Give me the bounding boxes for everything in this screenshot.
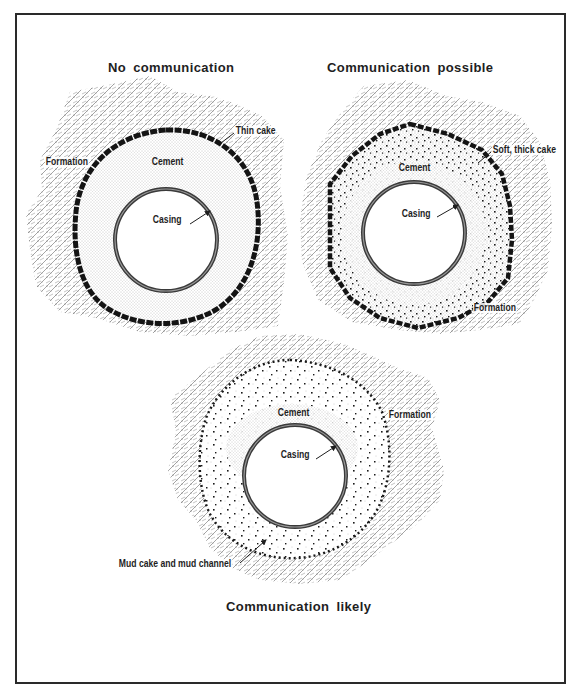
label-cement: Cement bbox=[151, 157, 184, 167]
panel-title-communication-possible: Communication possible bbox=[327, 61, 493, 74]
label-mud-cake-channel: Mud cake and mud channel bbox=[118, 559, 232, 569]
cement-bond-diagram: No communication Communication possible … bbox=[0, 0, 578, 696]
panel-title-communication-likely: Communication likely bbox=[226, 600, 371, 613]
label-casing: Casing bbox=[401, 209, 431, 219]
diagram-graphics bbox=[0, 0, 578, 696]
label-cement: Cement bbox=[398, 163, 431, 173]
label-casing: Casing bbox=[152, 215, 182, 225]
label-thin-cake: Thin cake bbox=[235, 126, 276, 136]
label-cement: Cement bbox=[277, 408, 310, 418]
label-formation: Formation bbox=[45, 157, 89, 167]
label-formation: Formation bbox=[388, 410, 432, 420]
label-soft-thick-cake: Soft, thick cake bbox=[492, 145, 557, 155]
label-casing: Casing bbox=[280, 450, 310, 460]
panel-communication-possible bbox=[300, 80, 552, 334]
panel-title-no-communication: No communication bbox=[108, 61, 234, 74]
panel-no-communication bbox=[26, 76, 288, 336]
label-formation: Formation bbox=[473, 303, 517, 313]
